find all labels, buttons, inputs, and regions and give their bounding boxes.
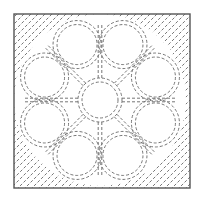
corner-diagonals [0,0,200,200]
diagonal-stitch [0,0,66,200]
diagonal-stitch [6,0,200,200]
petal-lobe-inner [25,57,65,97]
diagonal-stitch [118,0,200,200]
diagonal-stitch [195,0,200,200]
diagonal-stitch [34,0,200,200]
diagonal-stitch [0,0,24,200]
diagonal-stitch [0,0,10,200]
petal-lobe-outer [53,21,101,69]
radial-stitch-line [48,45,86,83]
petal-lobe-outer [21,99,69,147]
radial-stitch-line [117,48,155,86]
diagonal-stitch [0,0,38,200]
petal-lobe-inner [103,25,143,65]
diagonal-stitch [76,0,200,200]
diagonal-stitch [20,0,200,200]
diagonal-stitch [174,0,200,200]
diagonal-stitch [160,0,200,200]
petal-lobe-inner [25,103,65,143]
diagonal-stitch [0,0,52,200]
petal-lobe-outer [21,53,69,101]
petal-lobe-inner [57,25,97,65]
petal-lobe-inner [103,135,143,175]
quilt-pattern-svg [0,0,200,200]
diagonal-stitch [146,0,200,200]
petal-lobe-outer [99,21,147,69]
diagonal-stitch [0,0,3,200]
petal-lobe-inner [135,57,175,97]
diagonal-stitch [0,0,178,200]
quilt-pattern-diagram: Quilting stitch pattern — eight-petal fl… [0,0,200,200]
petal-lobe-inner [135,103,175,143]
diagonal-stitch [0,0,136,200]
petal-lobe-inner [57,135,97,175]
diagonal-stitch [0,0,80,200]
diagonal-stitch [62,0,200,200]
